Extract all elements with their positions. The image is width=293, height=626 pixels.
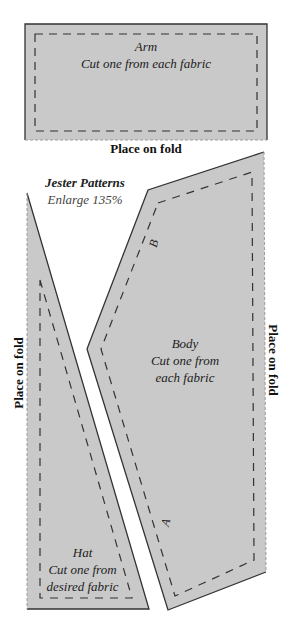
pattern-title: Jester Patterns <box>30 174 140 191</box>
hat-fold-label: Place on fold <box>11 328 27 418</box>
arm-name: Arm <box>25 38 267 55</box>
pattern-subtitle: Enlarge 135% <box>30 191 140 208</box>
arm-fold-label: Place on fold <box>25 141 267 157</box>
body-name: Body <box>120 335 250 352</box>
arm-instruction: Cut one from each fabric <box>25 55 267 72</box>
body-fold-label: Place on fold <box>265 315 281 405</box>
hat-instruction-1: Cut one from <box>30 561 135 578</box>
hat-name: Hat <box>30 544 135 561</box>
body-instruction-1: Cut one from <box>120 352 250 369</box>
body-instruction-2: each fabric <box>120 369 250 386</box>
hat-instruction-2: desired fabric <box>30 578 135 595</box>
pattern-pieces <box>0 0 293 626</box>
